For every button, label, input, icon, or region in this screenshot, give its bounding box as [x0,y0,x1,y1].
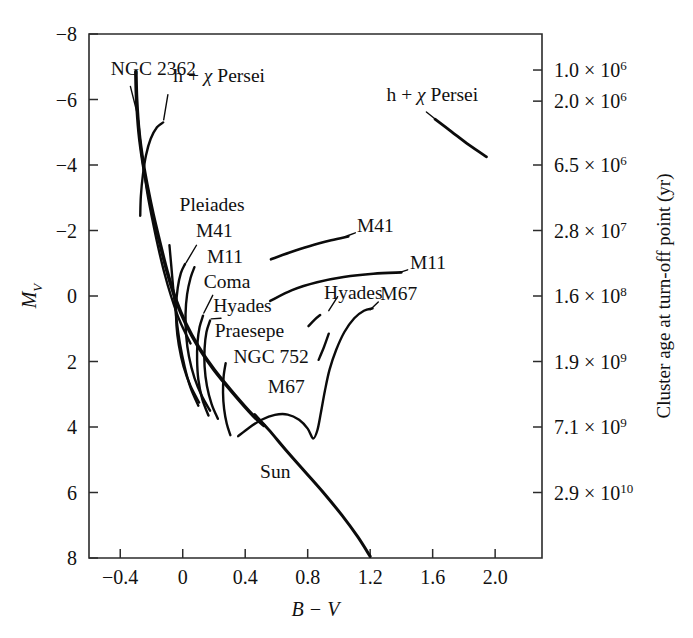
label-m41-giant: M41 [357,215,394,236]
plot-frame [89,34,542,558]
axis-ticks [89,34,542,558]
y2-tick-label-4: 1.6 × 108 [554,284,627,307]
y-tick-label-7: 6 [67,482,77,504]
m41-leader [186,245,196,262]
h-chi-persei-sg-leader [426,112,434,119]
m41-giant-leader [348,233,356,236]
label-m11: M11 [207,246,243,267]
y-axis-title: MV [18,282,45,310]
y-tick-label-5: 2 [67,351,77,373]
y2-tick-label-7: 2.9 × 1010 [554,481,633,504]
axis-tick-labels: −0.400.40.81.21.62.0−8−6−4−2024681.0 × 1… [56,23,634,588]
x-tick-label-6: 2.0 [483,566,508,588]
label-praesepe: Praesepe [215,320,284,341]
label-m41: M41 [196,220,233,241]
y-tick-label-3: −2 [56,220,77,242]
label-sun: Sun [260,461,291,482]
x-tick-label-2: 0.4 [233,566,258,588]
plot-border [89,34,542,558]
label-pleiades: Pleiades [180,194,245,215]
x-tick-label-0: −0.4 [102,566,138,588]
color-magnitude-diagram-figure: NGC 2362h + χ PerseiPleiadesM41M11ComaHy… [0,0,693,638]
label-h-chi-persei-sg: h + χ Persei [387,84,479,105]
y2-tick-label-3: 2.8 × 107 [554,219,627,242]
label-hyades-ms: Hyades [213,295,271,316]
y2-tick-label-6: 7.1 × 109 [554,415,627,438]
plot-canvas: NGC 2362h + χ PerseiPleiadesM41M11ComaHy… [0,0,693,638]
x-tick-label-4: 1.2 [358,566,383,588]
cluster-curves [136,72,487,557]
x-tick-label-3: 0.8 [295,566,320,588]
y-tick-label-8: 8 [67,547,77,569]
x-tick-label-1: 0 [178,566,188,588]
label-ngc-752: NGC 752 [233,346,308,367]
label-m67-giant: M67 [380,283,417,304]
y2-tick-label-1: 2.0 × 106 [554,89,627,112]
label-hyades-giant: Hyades [324,282,382,303]
y2-axis-title: Cluster age at turn-off point (yr) [653,174,675,419]
y-tick-label-6: 4 [67,416,77,438]
y-tick-label-0: −8 [56,23,77,45]
label-m11-giant: M11 [410,252,446,273]
label-m67-lower: M67 [268,376,305,397]
y-tick-label-4: 0 [67,285,77,307]
curve-hyades-giant-clump [308,315,320,326]
curve-ngc752-branch [223,363,230,435]
curve-h-chi-persei-supergiants [435,119,487,157]
label-h-chi-persei-top: h + χ Persei [173,65,265,86]
label-coma: Coma [204,271,251,292]
curve-main-sequence-trunk [136,72,264,426]
y2-tick-label-2: 6.5 × 106 [554,153,627,176]
hyades-leader [211,318,221,319]
y-tick-label-2: −4 [56,154,77,176]
coma-leader [204,295,213,313]
curve-m67-giant-upper [319,334,329,360]
h-chi-persei-leader [164,95,168,120]
y2-tick-label-5: 1.9 × 109 [554,350,627,373]
x-axis-title: B − V [292,598,343,620]
m11-giant-leader [400,270,408,273]
curve-m41-giant-branch [271,236,348,259]
y2-tick-label-0: 1.0 × 106 [554,58,627,81]
y-tick-label-1: −6 [56,89,77,111]
x-tick-label-5: 1.6 [420,566,445,588]
